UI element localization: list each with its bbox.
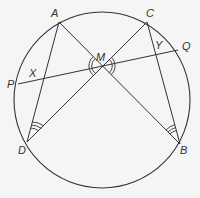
label-Y: Y bbox=[155, 39, 163, 51]
chord-CB bbox=[147, 22, 180, 144]
circle bbox=[14, 12, 190, 188]
label-X: X bbox=[28, 67, 37, 79]
circle-geometry-diagram: A C M Y Q X P D B bbox=[0, 0, 200, 198]
label-C: C bbox=[146, 7, 154, 19]
label-Q: Q bbox=[182, 40, 191, 52]
angle-mark-M-left bbox=[89, 57, 95, 75]
label-B: B bbox=[180, 144, 187, 156]
label-P: P bbox=[7, 78, 15, 90]
label-M: M bbox=[96, 51, 106, 63]
diagram-svg: A C M Y Q X P D B bbox=[0, 0, 200, 198]
angle-mark-M-right bbox=[109, 57, 115, 75]
label-A: A bbox=[50, 7, 58, 19]
chord-CD bbox=[27, 22, 147, 142]
chord-AD bbox=[27, 22, 59, 142]
label-D: D bbox=[18, 144, 26, 156]
